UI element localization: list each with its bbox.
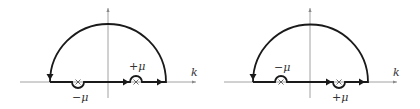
direction-arrow-icon xyxy=(47,74,54,80)
left-contour-diagram: −μ +μ k xyxy=(20,8,198,104)
contour-path xyxy=(253,24,368,88)
direction-arrow-icon xyxy=(359,79,365,86)
pole-minus-mu-label: −μ xyxy=(72,91,88,104)
contour-diagrams: −μ +μ k −μ +μ k xyxy=(0,0,420,109)
axis-k-label: k xyxy=(191,66,198,79)
direction-arrow-icon xyxy=(157,79,163,86)
axis-k-label: k xyxy=(393,66,400,79)
direction-arrow-icon xyxy=(250,74,257,80)
pole-plus-mu-label: +μ xyxy=(129,60,145,73)
right-contour-diagram: −μ +μ k xyxy=(224,8,400,104)
direction-arrow-icon xyxy=(326,79,332,86)
direction-arrow-icon xyxy=(123,79,129,86)
pole-plus-mu-label: +μ xyxy=(332,91,348,104)
pole-minus-mu-label: −μ xyxy=(274,61,290,74)
